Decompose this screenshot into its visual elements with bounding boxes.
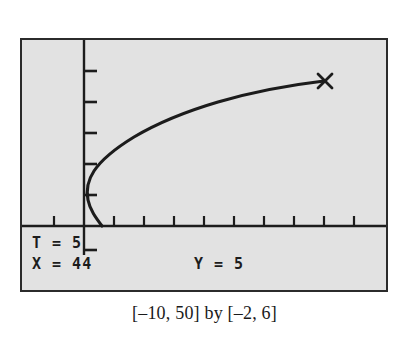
y-axis-ticks [84, 71, 97, 250]
curve-trace [87, 81, 324, 226]
viewing-window-caption: [–10, 50] by [–2, 6] [0, 303, 409, 324]
graph-plot-area [22, 40, 386, 290]
graphing-calculator-screen: T = 5 X = 44 Y = 5 [20, 38, 388, 292]
